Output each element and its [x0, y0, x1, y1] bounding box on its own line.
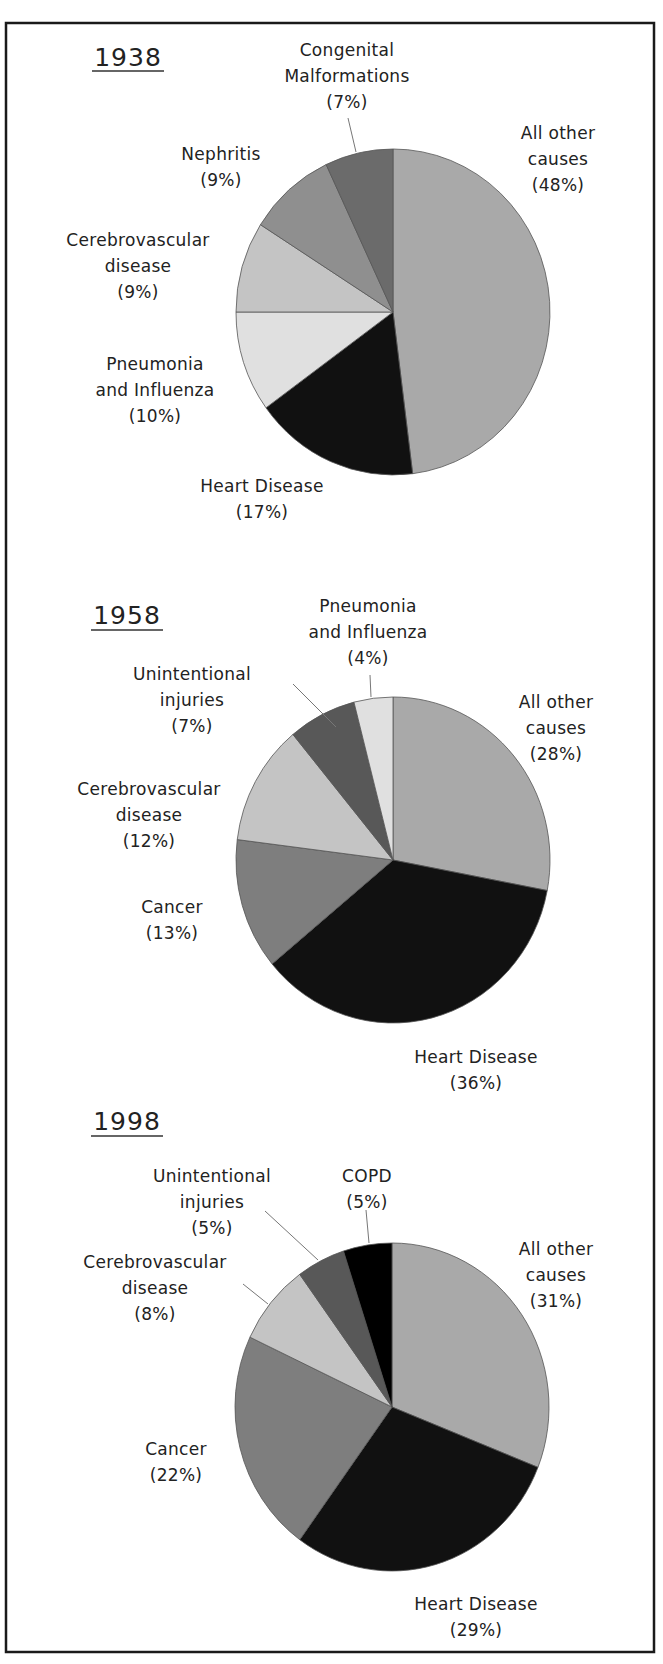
leader-line	[370, 675, 371, 697]
pie-chart-1998: 1998All othercauses(31%)Heart Disease(29…	[83, 1107, 593, 1640]
year-title: 1958	[93, 601, 161, 630]
leader-line	[243, 1284, 268, 1304]
slice-label-pneumonia-and-influenza: Pneumoniaand Influenza(10%)	[95, 354, 214, 426]
mortality-pie-charts: 1938All othercauses(48%)Heart Disease(17…	[0, 0, 663, 1664]
slice-label-all-other-causes: All othercauses(28%)	[519, 692, 593, 764]
year-title: 1938	[94, 43, 162, 72]
slice-label-heart-disease: Heart Disease(17%)	[200, 476, 323, 522]
slice-label-copd: COPD(5%)	[342, 1166, 392, 1212]
slice-label-cancer: Cancer(22%)	[145, 1439, 207, 1485]
slice-label-cerebrovascular-disease: Cerebrovasculardisease(12%)	[77, 779, 220, 851]
slice-label-pneumonia-and-influenza: Pneumoniaand Influenza(4%)	[308, 596, 427, 668]
slice-label-congenital-malformations: CongenitalMalformations(7%)	[284, 40, 409, 112]
leader-line	[348, 118, 356, 152]
pie-chart-1938: 1938All othercauses(48%)Heart Disease(17…	[66, 40, 595, 522]
leader-line	[366, 1210, 369, 1243]
slice-label-heart-disease: Heart Disease(29%)	[414, 1594, 537, 1640]
slice-label-all-other-causes: All othercauses(48%)	[521, 123, 595, 195]
slice-label-nephritis: Nephritis(9%)	[181, 144, 260, 190]
slice-label-all-other-causes: All othercauses(31%)	[519, 1239, 593, 1311]
slice-label-cancer: Cancer(13%)	[141, 897, 203, 943]
year-title: 1998	[93, 1107, 161, 1136]
pie-chart-1958: 1958All othercauses(28%)Heart Disease(36…	[77, 596, 593, 1093]
slice-label-cerebrovascular-disease: Cerebrovasculardisease(9%)	[66, 230, 209, 302]
slice-all-other-causes	[393, 149, 550, 474]
slice-label-heart-disease: Heart Disease(36%)	[414, 1047, 537, 1093]
pie-charts-group: 1938All othercauses(48%)Heart Disease(17…	[66, 40, 595, 1640]
slice-label-unintentional-injuries: Unintentionalinjuries(7%)	[133, 664, 251, 736]
slice-label-cerebrovascular-disease: Cerebrovasculardisease(8%)	[83, 1252, 226, 1324]
leader-line	[265, 1211, 318, 1260]
slice-label-unintentional-injuries: Unintentionalinjuries(5%)	[153, 1166, 271, 1238]
